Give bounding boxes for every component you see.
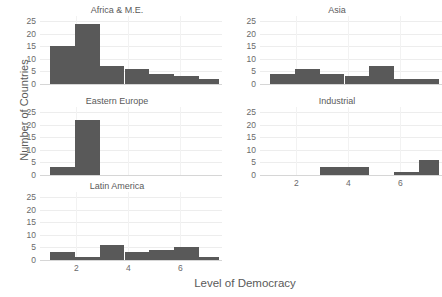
y-axis-tick: 25	[14, 192, 36, 202]
panel-industrial: Industrial0510152025246	[232, 96, 442, 190]
y-axis-tick: 0	[234, 170, 256, 180]
bar	[100, 245, 125, 260]
bar	[100, 66, 125, 84]
bar	[394, 79, 419, 84]
plot-area: 0510152025	[260, 16, 442, 85]
x-axis-tick: 4	[126, 263, 131, 273]
bar	[419, 160, 440, 175]
y-axis-tick: 5	[14, 157, 36, 167]
panel-eastern-europe: Eastern Europe0510152025	[12, 96, 222, 190]
bar	[75, 24, 100, 84]
bar	[125, 252, 150, 260]
y-axis-tick: 0	[14, 79, 36, 89]
bar-series	[40, 16, 222, 84]
bar-series	[40, 107, 222, 175]
y-axis-tick: 20	[14, 205, 36, 215]
bar	[320, 74, 345, 84]
y-axis-tick: 20	[234, 120, 256, 130]
bar	[125, 69, 150, 84]
bar	[199, 79, 220, 84]
y-axis-tick: 15	[234, 41, 256, 51]
y-axis-tick: 10	[14, 230, 36, 240]
bar-series	[260, 107, 442, 175]
y-axis-tick: 10	[14, 145, 36, 155]
bar-series	[40, 192, 222, 260]
y-axis-tick: 0	[14, 255, 36, 265]
bar	[174, 76, 199, 84]
y-axis-tick: 25	[14, 16, 36, 26]
y-axis-tick: 5	[14, 66, 36, 76]
bar	[199, 257, 220, 260]
y-axis-tick: 25	[14, 107, 36, 117]
x-axis-tick: 6	[398, 178, 403, 188]
y-axis-tick: 15	[14, 41, 36, 51]
plot-wrapper: 0510152025246	[12, 192, 222, 286]
panel-title: Industrial	[232, 96, 442, 106]
y-axis-tick: 5	[234, 66, 256, 76]
y-axis-tick: 10	[14, 54, 36, 64]
bar	[75, 257, 100, 260]
bar	[50, 167, 75, 175]
y-axis-tick: 15	[14, 217, 36, 227]
bar	[174, 247, 199, 260]
panel-title: Latin America	[12, 181, 222, 191]
bar	[295, 69, 320, 84]
bar-series	[260, 16, 442, 84]
bar	[419, 79, 440, 84]
y-axis-tick: 15	[234, 132, 256, 142]
bar	[50, 46, 75, 84]
y-axis-tick: 5	[234, 157, 256, 167]
bar	[394, 172, 419, 175]
plot-area: 0510152025	[40, 16, 222, 85]
panel-asia: Asia0510152025	[232, 5, 442, 99]
bar	[149, 250, 174, 260]
histogram-figure: Number of Countries Level of Democracy A…	[0, 0, 442, 297]
y-axis-tick: 20	[14, 120, 36, 130]
panel-latin-america: Latin America0510152025246	[12, 181, 222, 275]
bar	[75, 120, 100, 175]
y-axis-tick: 20	[234, 29, 256, 39]
y-axis-tick: 25	[234, 16, 256, 26]
y-axis-tick: 15	[14, 132, 36, 142]
x-axis-tick: 2	[74, 263, 79, 273]
bar	[50, 252, 75, 260]
bar	[149, 74, 174, 84]
y-axis-tick: 10	[234, 54, 256, 64]
y-axis-tick: 5	[14, 242, 36, 252]
panel-title: Eastern Europe	[12, 96, 222, 106]
y-axis-tick: 25	[234, 107, 256, 117]
bar	[369, 66, 394, 84]
y-axis-tick: 0	[14, 170, 36, 180]
y-axis-tick: 0	[234, 79, 256, 89]
plot-area: 0510152025	[40, 107, 222, 176]
panel-africa-m-e: Africa & M.E.0510152025	[12, 5, 222, 99]
panel-title: Asia	[232, 5, 442, 15]
bar	[345, 76, 370, 84]
y-axis-tick: 10	[234, 145, 256, 155]
plot-wrapper: 0510152025246	[232, 107, 442, 201]
x-axis-tick: 2	[294, 178, 299, 188]
bar	[270, 74, 295, 84]
y-axis-tick: 20	[14, 29, 36, 39]
plot-area: 0510152025246	[260, 107, 442, 176]
x-axis-tick: 4	[346, 178, 351, 188]
x-axis-tick: 6	[178, 263, 183, 273]
bar	[320, 167, 369, 175]
plot-area: 0510152025246	[40, 192, 222, 261]
panel-title: Africa & M.E.	[12, 5, 222, 15]
